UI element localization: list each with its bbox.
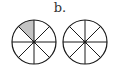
shaded-slice (18, 20, 34, 42)
fraction-circles-diagram (0, 0, 113, 70)
left-fraction-circle (12, 20, 56, 64)
center-dot (83, 40, 86, 43)
center-dot (32, 40, 35, 43)
right-fraction-circle (63, 20, 107, 64)
